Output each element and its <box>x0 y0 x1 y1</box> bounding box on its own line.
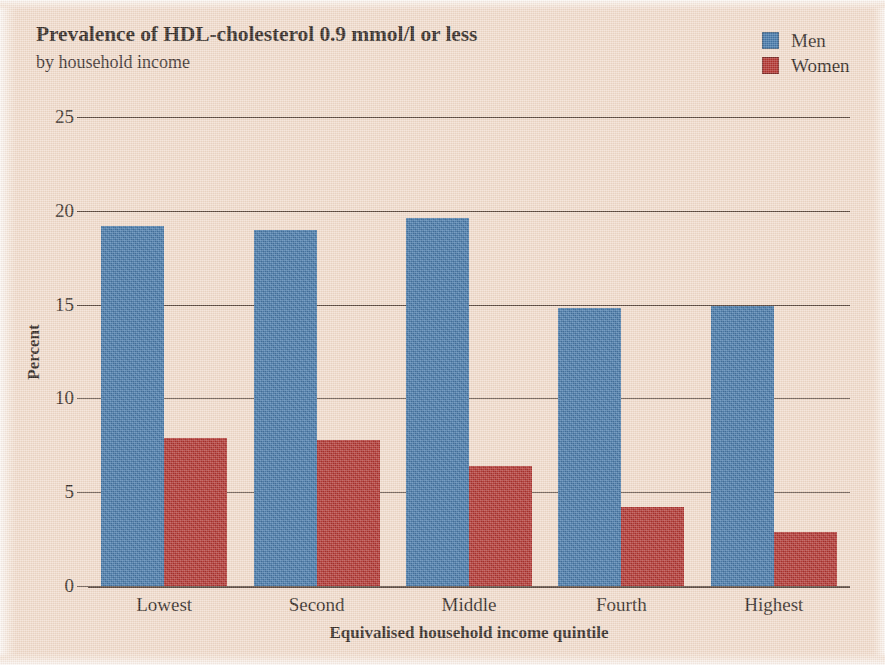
y-axis-tick <box>77 398 88 399</box>
gridline <box>88 211 850 212</box>
page-edge-left <box>0 0 16 665</box>
bar-women-lowest <box>164 438 227 586</box>
x-axis-tick-label: Highest <box>744 594 803 616</box>
chart-figure: Prevalence of HDL-cholesterol 0.9 mmol/l… <box>0 0 885 665</box>
page-edge-top <box>0 0 885 10</box>
gridline <box>88 117 850 118</box>
bar-men-fourth <box>558 308 621 586</box>
y-axis-tick-label: 25 <box>55 106 74 128</box>
y-axis-title-text: Percent <box>24 324 44 379</box>
legend-swatch-icon <box>762 32 779 49</box>
y-axis-tick-label: 10 <box>55 387 74 409</box>
legend-label: Women <box>791 55 850 77</box>
legend-swatch-icon <box>762 57 779 74</box>
bar-women-fourth <box>621 507 684 586</box>
y-axis-tick-label: 20 <box>55 200 74 222</box>
y-axis-title: Percent <box>24 117 44 586</box>
x-axis-tick-label: Lowest <box>136 594 192 616</box>
bar-men-lowest <box>101 226 164 586</box>
chart-title: Prevalence of HDL-cholesterol 0.9 mmol/l… <box>36 22 477 47</box>
x-axis-tick-label: Fourth <box>596 594 647 616</box>
bar-men-highest <box>711 306 774 586</box>
y-axis-tick <box>77 211 88 212</box>
y-axis-tick-label: 5 <box>65 481 75 503</box>
bar-women-middle <box>469 466 532 586</box>
bar-women-highest <box>774 532 837 586</box>
y-axis-tick <box>77 305 88 306</box>
chart-subtitle: by household income <box>36 52 190 73</box>
y-axis-tick <box>77 586 88 587</box>
page-edge-right <box>873 0 885 665</box>
bar-women-second <box>317 440 380 586</box>
legend-item-men: Men <box>762 28 850 53</box>
legend-item-women: Women <box>762 53 850 78</box>
x-axis-line <box>88 586 850 588</box>
plot-area: 0510152025LowestSecondMiddleFourthHighes… <box>88 117 850 586</box>
bar-men-middle <box>406 218 469 586</box>
y-axis-tick <box>77 117 88 118</box>
page-edge-bottom <box>0 653 885 665</box>
x-axis-tick-label: Second <box>289 594 345 616</box>
y-axis-tick <box>77 492 88 493</box>
y-axis-tick-label: 15 <box>55 294 74 316</box>
legend-label: Men <box>791 30 826 52</box>
x-axis-title: Equivalised household income quintile <box>88 623 850 643</box>
gridline <box>88 305 850 306</box>
bar-men-second <box>254 230 317 586</box>
x-axis-tick-label: Middle <box>442 594 497 616</box>
chart-legend: MenWomen <box>762 28 850 78</box>
y-axis-tick-label: 0 <box>65 575 75 597</box>
